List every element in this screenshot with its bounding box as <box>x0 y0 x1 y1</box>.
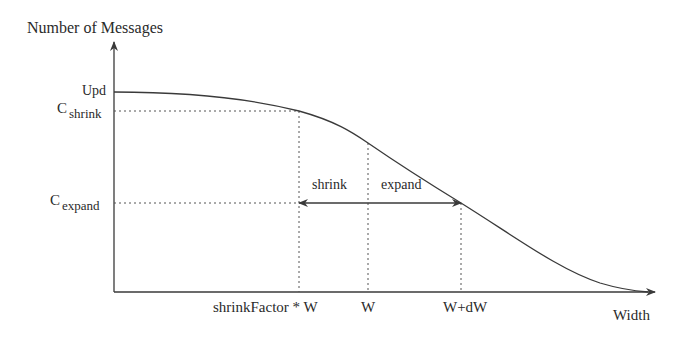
x-tick-w: W <box>361 300 375 315</box>
y-tick-c-shrink-sub: shrink <box>69 106 102 121</box>
y-tick-c-expand-main: C <box>50 192 60 208</box>
y-tick-c-expand: Cexpand <box>50 193 100 208</box>
x-tick-w-plus-dw: W+dW <box>443 300 487 315</box>
x-axis-label: Width <box>613 308 650 323</box>
x-tick-shrinkfactor-w: shrinkFactor * W <box>213 300 318 315</box>
y-axis-label: Number of Messages <box>27 20 163 36</box>
y-tick-c-shrink-main: C <box>57 100 67 116</box>
shrink-label: shrink <box>312 178 347 192</box>
messages-curve <box>114 92 648 292</box>
y-tick-c-shrink: Cshrink <box>57 101 102 116</box>
expand-label: expand <box>381 178 421 192</box>
diagram-canvas <box>0 0 692 341</box>
y-tick-upd: Upd <box>82 84 106 98</box>
y-tick-upd-label: Upd <box>82 83 106 98</box>
y-tick-c-expand-sub: expand <box>62 198 100 213</box>
